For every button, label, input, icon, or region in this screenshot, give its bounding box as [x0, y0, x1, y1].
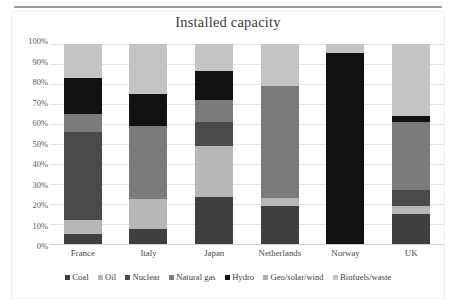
legend-item-biofuels-waste[interactable]: Biofuels/waste	[333, 272, 392, 282]
legend-item-coal[interactable]: Coal	[65, 272, 89, 282]
legend-label: Natural gas	[176, 272, 215, 282]
x-axis-tick-labels: FranceItalyJapanNetherlandsNorwayUK	[50, 248, 444, 262]
legend-label: Biofuels/waste	[340, 272, 391, 282]
x-axis-tick-norway: Norway	[313, 248, 379, 262]
bar-segment-nuclear[interactable]	[195, 122, 233, 146]
y-axis-tick: 40%	[8, 159, 48, 169]
x-axis-tick-japan: Japan	[181, 248, 247, 262]
stacked-bar-netherlands[interactable]	[261, 44, 299, 244]
y-axis-tick: 30%	[8, 180, 48, 190]
gridline	[50, 244, 444, 245]
legend-label: Hydro	[232, 272, 254, 282]
bar-segment-oil[interactable]	[64, 220, 102, 234]
bar-segment-nuclear[interactable]	[392, 190, 430, 206]
square-swatch-icon	[263, 275, 268, 280]
bar-slot	[116, 44, 181, 244]
bar-segment-oil[interactable]	[195, 146, 233, 197]
x-axis-tick-france: France	[50, 248, 116, 262]
square-swatch-icon	[98, 275, 103, 280]
legend-label: Geo/solar/wind	[271, 272, 324, 282]
stacked-bars	[50, 44, 444, 244]
bar-segment-biofuels-waste[interactable]	[129, 44, 167, 94]
bar-segment-biofuels-waste[interactable]	[261, 44, 299, 86]
legend-item-oil[interactable]: Oil	[98, 272, 116, 282]
bar-segment-hydro[interactable]	[195, 71, 233, 100]
bar-segment-hydro[interactable]	[64, 78, 102, 114]
chart-legend: CoalOilNuclearNatural gasHydroGeo/solar/…	[14, 270, 442, 284]
bar-slot	[181, 44, 246, 244]
bar-segment-biofuels-waste[interactable]	[64, 44, 102, 78]
bar-segment-oil[interactable]	[129, 199, 167, 229]
bar-segment-oil[interactable]	[261, 198, 299, 206]
legend-item-hydro[interactable]: Hydro	[225, 272, 254, 282]
plot-wrapper: 100%90%80%70%60%50%40%30%20%10%0% France…	[0, 0, 456, 305]
y-axis-tick-labels: 100%90%80%70%60%50%40%30%20%10%0%	[8, 41, 48, 246]
square-swatch-icon	[65, 275, 70, 280]
bar-segment-oil[interactable]	[392, 206, 430, 214]
bar-segment-natural-gas[interactable]	[392, 122, 430, 190]
bar-segment-hydro[interactable]	[129, 94, 167, 126]
legend-label: Nuclear	[133, 272, 160, 282]
bar-segment-hydro[interactable]	[326, 53, 364, 244]
bar-segment-natural-gas[interactable]	[261, 86, 299, 198]
y-axis-tick: 10%	[8, 221, 48, 231]
bar-segment-coal[interactable]	[195, 197, 233, 244]
bar-segment-natural-gas[interactable]	[195, 100, 233, 122]
stacked-bar-uk[interactable]	[392, 44, 430, 244]
legend-item-nuclear[interactable]: Nuclear	[125, 272, 160, 282]
legend-label: Oil	[105, 272, 116, 282]
bar-slot	[313, 44, 378, 244]
x-axis-tick-netherlands: Netherlands	[247, 248, 313, 262]
square-swatch-icon	[125, 275, 130, 280]
y-axis-tick: 0%	[8, 241, 48, 251]
y-axis-tick: 20%	[8, 200, 48, 210]
x-axis-tick-italy: Italy	[116, 248, 182, 262]
y-axis-tick: 90%	[8, 57, 48, 67]
bar-slot	[50, 44, 115, 244]
legend-label: Coal	[72, 272, 88, 282]
square-swatch-icon	[333, 275, 338, 280]
bar-segment-natural-gas[interactable]	[64, 114, 102, 132]
bar-segment-biofuels-waste[interactable]	[195, 44, 233, 71]
y-axis-tick: 70%	[8, 98, 48, 108]
square-swatch-icon	[225, 275, 230, 280]
bar-segment-coal[interactable]	[261, 206, 299, 244]
bar-segment-coal[interactable]	[129, 229, 167, 244]
stacked-bar-italy[interactable]	[129, 44, 167, 244]
bar-segment-nuclear[interactable]	[64, 132, 102, 220]
stacked-bar-japan[interactable]	[195, 44, 233, 244]
y-axis-tick: 100%	[8, 36, 48, 46]
stacked-bar-france[interactable]	[64, 44, 102, 244]
bar-slot	[247, 44, 312, 244]
y-axis-tick: 50%	[8, 139, 48, 149]
bar-segment-coal[interactable]	[64, 234, 102, 244]
square-swatch-icon	[169, 275, 174, 280]
plot-area	[50, 44, 444, 244]
legend-item-geo-solar-wind[interactable]: Geo/solar/wind	[263, 272, 324, 282]
x-axis-tick-uk: UK	[378, 248, 444, 262]
bar-segment-coal[interactable]	[392, 214, 430, 244]
y-axis-tick: 80%	[8, 77, 48, 87]
bar-segment-natural-gas[interactable]	[129, 126, 167, 199]
chart-card: Installed capacity 100%90%80%70%60%50%40…	[0, 0, 456, 305]
bar-segment-biofuels-waste[interactable]	[392, 44, 430, 116]
legend-item-natural-gas[interactable]: Natural gas	[169, 272, 216, 282]
y-axis-tick: 60%	[8, 118, 48, 128]
bar-segment-biofuels-waste[interactable]	[326, 44, 364, 53]
bar-slot	[378, 44, 443, 244]
stacked-bar-norway[interactable]	[326, 44, 364, 244]
